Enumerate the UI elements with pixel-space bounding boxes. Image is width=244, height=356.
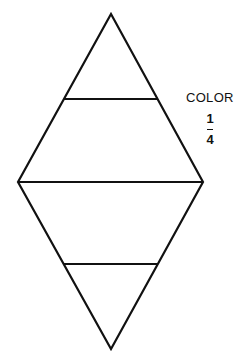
color-label: COLOR [186, 90, 234, 105]
fraction-denominator: 4 [206, 132, 213, 147]
rhombus-diagram [0, 0, 244, 356]
fraction: 1 4 [202, 112, 218, 147]
fraction-bar [207, 129, 213, 130]
fraction-numerator: 1 [206, 111, 213, 126]
